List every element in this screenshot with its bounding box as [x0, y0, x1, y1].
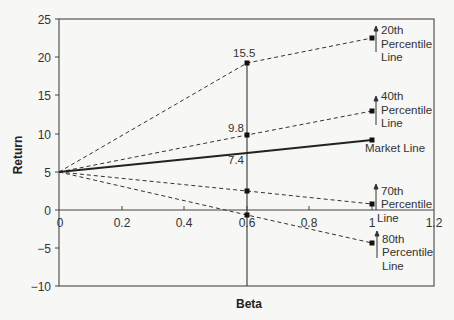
svg-text:0.8: 0.8 — [301, 216, 318, 230]
svg-text:40th: 40th — [381, 90, 403, 102]
svg-text:1: 1 — [369, 216, 376, 230]
label-20th-percentile-line: 20th Percentile Line — [381, 24, 432, 63]
svg-text:20th: 20th — [381, 24, 403, 36]
line-80th-percentile — [59, 172, 372, 243]
line-40th-percentile — [59, 111, 372, 172]
y-tick-labels: 25 20 15 10 5 0 −5 −10 — [31, 13, 52, 294]
svg-text:10: 10 — [38, 128, 52, 142]
line-70th-percentile — [59, 172, 372, 204]
svg-text:1.2: 1.2 — [426, 216, 443, 230]
svg-text:0.4: 0.4 — [176, 216, 193, 230]
svg-text:Line: Line — [377, 212, 399, 224]
svg-text:25: 25 — [38, 13, 52, 27]
svg-text:−10: −10 — [31, 280, 52, 294]
svg-text:70th: 70th — [381, 185, 403, 197]
svg-text:80th: 80th — [382, 233, 404, 245]
chart: 25 20 15 10 5 0 −5 −10 0 0.2 0.4 0.6 0.8… — [0, 0, 454, 320]
svg-text:20: 20 — [38, 51, 52, 65]
svg-text:Line: Line — [382, 260, 404, 272]
label-market-line: Market Line — [365, 142, 425, 154]
svg-text:Line: Line — [381, 117, 403, 129]
percentile-lines — [59, 38, 372, 243]
svg-text:Line: Line — [381, 51, 403, 63]
svg-text:0.2: 0.2 — [114, 216, 131, 230]
label-80th-percentile-line: 80th Percentile Line — [382, 233, 433, 272]
svg-text:Percentile: Percentile — [381, 38, 432, 50]
annotation-9-8: 9.8 — [228, 122, 244, 134]
label-40th-percentile-line: 40th Percentile Line — [381, 90, 432, 129]
svg-text:Percentile: Percentile — [381, 104, 432, 116]
annotation-7-4: 7.4 — [228, 154, 245, 166]
svg-text:0: 0 — [44, 204, 51, 218]
svg-text:−5: −5 — [37, 242, 51, 256]
data-markers — [245, 36, 375, 246]
svg-text:0: 0 — [57, 216, 64, 230]
annotation-15-5: 15.5 — [233, 47, 255, 59]
svg-text:Percentile: Percentile — [381, 198, 432, 210]
svg-text:5: 5 — [44, 166, 51, 180]
line-20th-percentile — [59, 38, 372, 172]
y-axis-title: Return — [11, 136, 25, 175]
label-70th-percentile-line: 70th Percentile Line — [377, 185, 432, 224]
svg-text:15: 15 — [38, 89, 52, 103]
x-axis-title: Beta — [236, 297, 262, 311]
svg-text:Percentile: Percentile — [382, 246, 433, 258]
market-line — [59, 140, 372, 172]
